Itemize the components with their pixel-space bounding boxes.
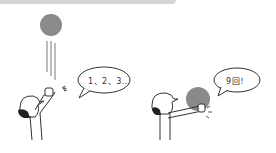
catch-illustration xyxy=(138,0,276,153)
ball-icon xyxy=(40,14,62,36)
panel-toss: 1、2、3… xyxy=(0,0,138,153)
panel-catch: 9回！ xyxy=(138,0,276,153)
speech-bubble-count: 1、2、3… xyxy=(88,75,130,86)
speech-bubble-result: 9回！ xyxy=(226,75,249,86)
